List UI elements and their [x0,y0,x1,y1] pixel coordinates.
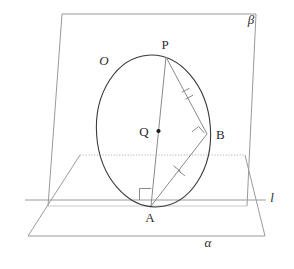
label-point-P: P [161,37,168,52]
plane-beta-right-edge [247,14,256,206]
right-angle-A [140,189,152,201]
label-line-l: l [270,190,274,205]
geometry-canvas: O P A B Q β α l [0,0,294,269]
right-angle-markers-group [140,127,205,201]
label-plane-beta: β [247,12,255,27]
plane-beta-group [48,14,256,206]
plane-alpha-left-edge [28,155,80,236]
right-angle-B [192,127,204,134]
label-point-B: B [216,127,225,142]
geometry-figure: O P A B Q β α l [0,0,294,269]
plane-alpha-right-edge [245,155,265,236]
label-center-Q: Q [139,124,149,139]
label-plane-alpha: α [205,235,213,250]
plane-beta-left-edge [48,14,62,206]
circle-O [91,51,215,211]
point-dot-Q [156,129,160,133]
label-circle-O: O [99,53,109,68]
label-point-A: A [145,210,155,225]
segment-PB [166,57,207,134]
